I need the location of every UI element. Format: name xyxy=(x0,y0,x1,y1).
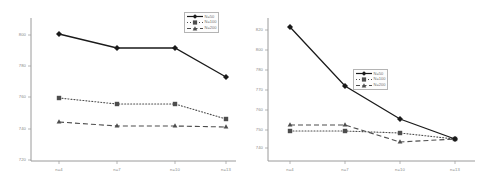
left-series-n200-marker xyxy=(57,119,62,123)
left-xtick-label: n=10 xyxy=(165,167,185,172)
legend-label: N=200 xyxy=(205,26,217,30)
right-series-n100-line xyxy=(290,131,455,139)
left-ytick-label: 780 xyxy=(8,63,26,68)
left-legend-item-n200: N=200 xyxy=(187,26,216,31)
left-series-n100-marker xyxy=(173,102,177,106)
left-series-n100-marker xyxy=(115,102,119,106)
right-xtick-label: n=13 xyxy=(445,167,465,172)
right-xtick-label: n=4 xyxy=(280,167,300,172)
right-ytick-label: 740 xyxy=(243,145,263,150)
right-xtick-label: n=7 xyxy=(335,167,355,172)
right-series-n50-marker xyxy=(397,116,403,122)
left-series-n200-marker xyxy=(173,123,178,127)
right-legend-item-n200: N=200 xyxy=(356,83,385,88)
legend-key-solid-diamond-icon xyxy=(187,14,203,19)
left-series-n100-marker xyxy=(57,96,61,100)
right-series-n200-line xyxy=(290,125,455,142)
right-ytick-label: 750 xyxy=(243,127,263,132)
left-series-n200-line xyxy=(59,122,226,127)
legend-label: N=200 xyxy=(374,83,386,87)
legend-key-dotted-square-icon xyxy=(187,20,203,25)
legend-label: N=50 xyxy=(205,15,215,19)
right-series-n100-marker xyxy=(288,129,292,133)
legend-key-solid-diamond-icon xyxy=(356,71,372,76)
figure-two-panel-line-charts: 800 780 760 740 720 n=4 n=7 n=10 n=13 N=… xyxy=(0,0,478,182)
left-xtick-label: n=4 xyxy=(49,167,69,172)
left-series-n50-marker xyxy=(56,31,62,37)
chart-panel-left: 800 780 760 740 720 n=4 n=7 n=10 n=13 N=… xyxy=(0,0,239,182)
left-series-n100-line xyxy=(59,98,226,119)
left-ytick-label: 740 xyxy=(8,126,26,131)
right-ytick-label: 760 xyxy=(243,107,263,112)
right-ytick-label: 780 xyxy=(243,67,263,72)
left-xtick-label: n=13 xyxy=(216,167,236,172)
legend-key-dotted-square-icon xyxy=(356,77,372,82)
legend-key-dashed-triangle-icon xyxy=(356,83,372,88)
right-legend-item-n50: N=50 xyxy=(356,72,385,77)
left-series-n100-marker xyxy=(224,117,228,121)
right-series-n100-marker xyxy=(398,131,402,135)
legend-key-dashed-triangle-icon xyxy=(187,26,203,31)
chart-panel-right: 820 800 780 770 760 750 740 n=4 n=7 n=10… xyxy=(239,0,478,182)
left-series-n200-marker xyxy=(224,124,229,128)
right-series-n200-marker xyxy=(343,122,348,126)
right-legend: N=50 N=100 N=200 xyxy=(353,69,388,90)
legend-label: N=100 xyxy=(205,20,217,24)
left-series-n50-marker xyxy=(114,45,120,51)
left-legend-item-n50: N=50 xyxy=(187,15,216,20)
left-ytick-label: 720 xyxy=(8,157,26,162)
right-ytick-label: 800 xyxy=(243,47,263,52)
right-plot-area xyxy=(239,0,478,182)
right-legend-item-n100: N=100 xyxy=(356,77,385,82)
left-ytick-label: 800 xyxy=(8,32,26,37)
left-series-n50-marker xyxy=(223,74,229,80)
legend-label: N=50 xyxy=(374,72,384,76)
left-legend: N=50 N=100 N=200 xyxy=(184,12,219,33)
left-series-n50-marker xyxy=(172,45,178,51)
legend-label: N=100 xyxy=(374,77,386,81)
right-ytick-label: 820 xyxy=(243,27,263,32)
right-series-n100-marker xyxy=(343,129,347,133)
left-legend-item-n100: N=100 xyxy=(187,20,216,25)
left-series-n50-line xyxy=(59,34,226,77)
right-xtick-label: n=10 xyxy=(390,167,410,172)
right-series-n200-marker xyxy=(398,139,403,143)
right-ytick-label: 770 xyxy=(243,87,263,92)
left-ytick-label: 760 xyxy=(8,94,26,99)
right-series-n200-marker xyxy=(288,122,293,126)
left-xtick-label: n=7 xyxy=(107,167,127,172)
